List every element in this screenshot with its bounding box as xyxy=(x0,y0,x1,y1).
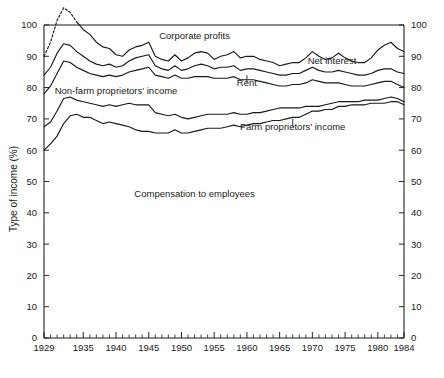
annotation-rent: Rent xyxy=(237,77,257,88)
x-tick-label-1970: 1970 xyxy=(302,342,323,353)
annotation-compensation-to-employees: Compensation to employees xyxy=(134,188,255,199)
annotation-corporate-profits: Corporate profits xyxy=(159,30,230,41)
y-tick-label-right-100: 100 xyxy=(411,19,427,30)
y-axis-title: Type of income (%) xyxy=(8,146,19,232)
y-tick-label-right-80: 80 xyxy=(411,82,422,93)
y-tick-label-right-90: 90 xyxy=(411,51,422,62)
y-tick-label-right-70: 70 xyxy=(411,113,422,124)
y-tick-label-left-10: 10 xyxy=(26,301,37,312)
y-tick-label-right-20: 20 xyxy=(411,270,422,281)
y-tick-label-right-10: 10 xyxy=(411,301,422,312)
y-tick-label-left-50: 50 xyxy=(26,176,37,187)
x-tick-label-1945: 1945 xyxy=(138,342,159,353)
y-tick-label-right-30: 30 xyxy=(411,239,422,250)
y-tick-label-left-90: 90 xyxy=(26,51,37,62)
y-tick-label-left-100: 100 xyxy=(21,19,37,30)
y-tick-label-right-50: 50 xyxy=(411,176,422,187)
x-tick-label-1960: 1960 xyxy=(236,342,257,353)
y-tick-label-left-80: 80 xyxy=(26,82,37,93)
y-tick-label-left-60: 60 xyxy=(26,145,37,156)
y-tick-label-left-0: 0 xyxy=(32,332,37,343)
x-tick-label-1975: 1975 xyxy=(335,342,356,353)
y-tick-label-right-40: 40 xyxy=(411,207,422,218)
annotation-farm-proprietors-income: Farm proprietors' income xyxy=(240,121,345,132)
y-tick-label-right-0: 0 xyxy=(411,332,416,343)
y-tick-label-left-40: 40 xyxy=(26,207,37,218)
x-tick-label-1950: 1950 xyxy=(171,342,192,353)
income-distribution-line-chart: 1929193519401945195019551960196519701975… xyxy=(0,0,444,378)
chart-figure: 1929193519401945195019551960196519701975… xyxy=(0,0,444,378)
x-tick-label-1940: 1940 xyxy=(105,342,126,353)
x-tick-label-1984: 1984 xyxy=(393,342,414,353)
x-tick-label-1935: 1935 xyxy=(73,342,94,353)
annotation-non-farm-proprietors-income: Non-farm proprietors' income xyxy=(55,85,178,96)
y-tick-label-left-20: 20 xyxy=(26,270,37,281)
y-tick-label-right-60: 60 xyxy=(411,145,422,156)
x-tick-label-1980: 1980 xyxy=(367,342,388,353)
x-tick-label-1955: 1955 xyxy=(204,342,225,353)
annotation-net-interest: Net interest xyxy=(308,55,357,66)
y-tick-label-left-70: 70 xyxy=(26,113,37,124)
y-tick-label-left-30: 30 xyxy=(26,239,37,250)
x-tick-label-1929: 1929 xyxy=(33,342,54,353)
x-tick-label-1965: 1965 xyxy=(269,342,290,353)
